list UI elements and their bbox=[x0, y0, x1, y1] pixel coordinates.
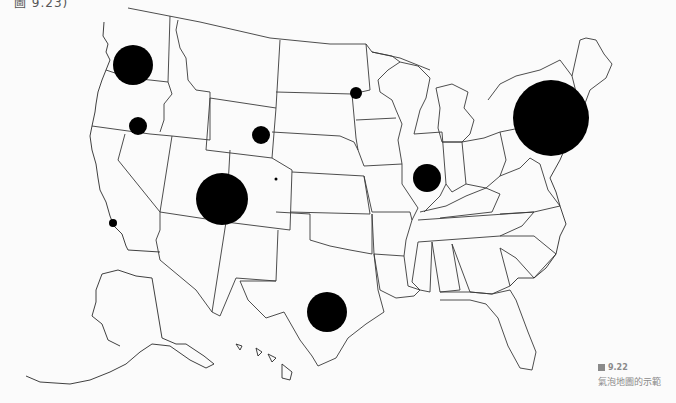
figure-number: 9.22 bbox=[608, 363, 628, 372]
bubble-marker bbox=[513, 80, 589, 156]
us-bubble-map bbox=[0, 0, 676, 403]
figure-number-line: 9.22 bbox=[598, 361, 661, 375]
bubble-marker bbox=[252, 126, 270, 144]
bubble-marker bbox=[129, 117, 147, 135]
bubble-marker bbox=[307, 292, 347, 332]
data-bubbles bbox=[109, 45, 589, 332]
bubble-marker bbox=[113, 45, 153, 85]
bubble-marker bbox=[350, 87, 362, 99]
figure-caption: 9.22 氣泡地圖的示範 bbox=[598, 361, 661, 389]
figure-tag-icon bbox=[598, 364, 605, 371]
bubble-marker bbox=[413, 164, 441, 192]
bubble-marker bbox=[109, 219, 117, 227]
bubble-marker bbox=[275, 178, 278, 181]
figure-title: 氣泡地圖的示範 bbox=[598, 375, 661, 389]
bubble-marker bbox=[196, 173, 248, 225]
